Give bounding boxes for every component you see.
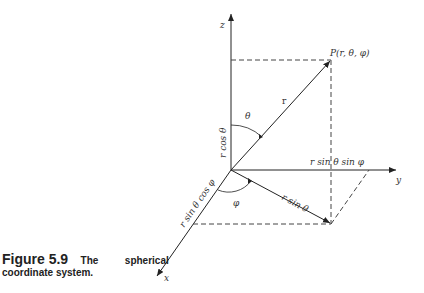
dash-projection-to-y bbox=[331, 170, 369, 224]
r-sin-theta-sin-phi-label: r sin θ sin φ bbox=[310, 157, 365, 167]
phi-label: φ bbox=[233, 198, 240, 208]
figure-number: Figure 5.9 bbox=[2, 251, 68, 267]
r-sin-theta-cos-phi-label: r sin θ cos φ bbox=[177, 177, 217, 229]
z-axis-label: z bbox=[219, 20, 225, 30]
phi-arc bbox=[218, 181, 251, 192]
theta-label: θ bbox=[245, 111, 251, 121]
y-axis-label: y bbox=[395, 175, 402, 185]
figure-caption: Figure 5.9 The spherical coordinate syst… bbox=[2, 250, 169, 278]
r-sin-theta-vector bbox=[231, 170, 330, 223]
point-label: P(r, θ, φ) bbox=[329, 48, 370, 58]
caption-word-spherical: spherical bbox=[125, 255, 169, 266]
caption-word-the: The bbox=[81, 255, 99, 266]
r-label: r bbox=[282, 96, 287, 106]
r-cos-theta-label: r cos θ bbox=[218, 127, 228, 158]
caption-line-2: coordinate system. bbox=[2, 267, 169, 278]
r-sin-theta-label: r sin θ bbox=[280, 192, 311, 215]
theta-arc bbox=[231, 125, 262, 137]
